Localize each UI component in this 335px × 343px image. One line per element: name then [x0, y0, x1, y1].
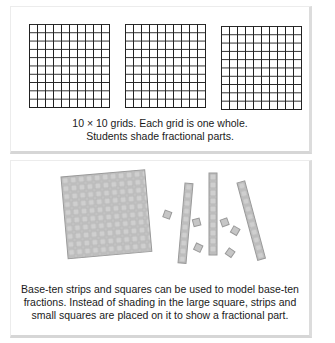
grids-caption-line-2: Students shade fractional parts. [11, 130, 309, 143]
large-square-flat [61, 170, 152, 259]
base-ten-caption-line-3: small squares are placed on it to show a… [11, 309, 309, 322]
base-ten-caption-line-2: fractions. Instead of shading in the lar… [11, 296, 309, 309]
base-ten-panel: Base-ten strips and squares can be used … [10, 160, 312, 338]
ten-by-ten-grid-2 [125, 24, 206, 108]
grids-panel: 10 × 10 grids. Each grid is one whole. S… [10, 6, 312, 154]
strip-1 [178, 183, 193, 263]
grids-caption-line-1: 10 × 10 grids. Each grid is one whole. [11, 117, 309, 130]
base-ten-caption: Base-ten strips and squares can be used … [11, 283, 309, 322]
base-ten-caption-line-1: Base-ten strips and squares can be used … [11, 283, 309, 296]
unit-cubes [163, 210, 240, 260]
strip-3 [237, 181, 265, 260]
ten-by-ten-grid-3 [221, 26, 302, 110]
ten-by-ten-grid-1 [29, 24, 110, 108]
strip-2 [209, 173, 217, 255]
grids-caption: 10 × 10 grids. Each grid is one whole. S… [11, 117, 309, 143]
